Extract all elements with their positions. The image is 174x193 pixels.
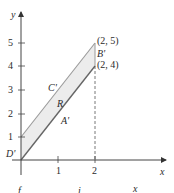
x-tick-2: 2 bbox=[92, 165, 97, 176]
edge-a-prime bbox=[21, 66, 95, 160]
x-tick-1: 1 bbox=[56, 165, 61, 176]
y-axis-label: y bbox=[10, 9, 16, 20]
point-label-2-5: (2, 5) bbox=[97, 35, 119, 47]
y-tick-2: 2 bbox=[8, 108, 13, 119]
label-a-prime: A' bbox=[60, 115, 70, 126]
y-tick-4: 4 bbox=[8, 60, 13, 71]
label-c-prime: C' bbox=[48, 82, 58, 93]
caption-fragment-2: i bbox=[78, 185, 81, 193]
y-tick-3: 3 bbox=[8, 84, 13, 95]
caption-fragment-1: f bbox=[18, 185, 22, 193]
label-r: R bbox=[56, 98, 63, 109]
label-b-prime: B' bbox=[97, 48, 106, 59]
y-tick-1: 1 bbox=[8, 131, 13, 142]
caption-fragment-3: x bbox=[132, 183, 138, 193]
edge-c-prime bbox=[21, 43, 95, 137]
point-label-2-4: (2, 4) bbox=[97, 59, 119, 71]
coordinate-diagram: 1 2 3 4 5 1 2 y x D' A' C' R B' (2, 5) (… bbox=[0, 0, 174, 193]
y-tick-5: 5 bbox=[8, 37, 13, 48]
label-d-prime: D' bbox=[5, 148, 16, 159]
x-axis-label: x bbox=[159, 166, 165, 177]
